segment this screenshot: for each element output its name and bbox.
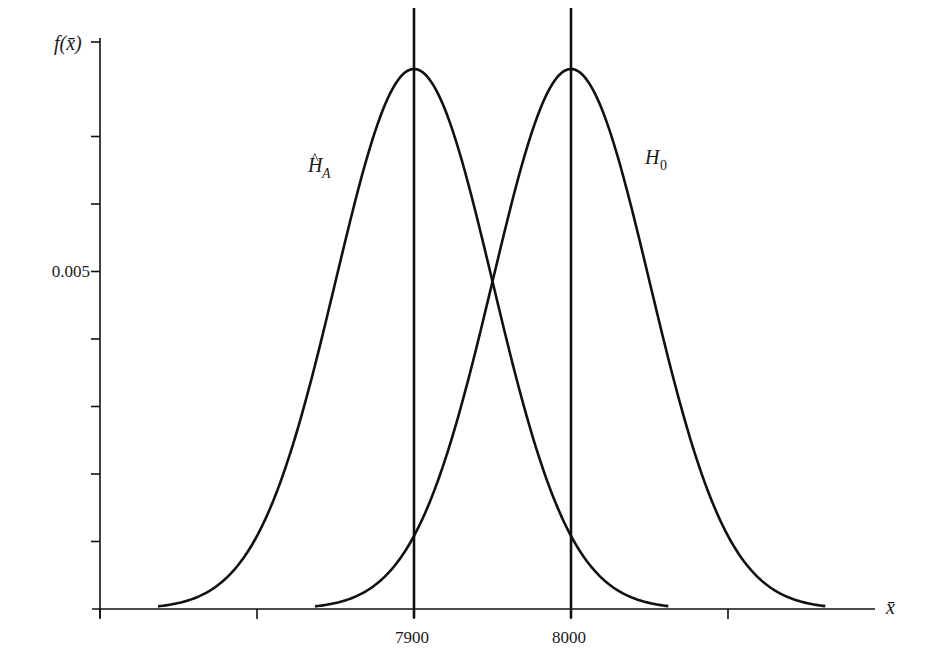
mean-vertical-lines — [414, 8, 571, 618]
y-ticks — [91, 42, 100, 542]
curve-label-h-a: ^ H A — [307, 150, 331, 181]
axes — [91, 38, 875, 619]
svg-text:0: 0 — [660, 158, 667, 173]
y-axis-label: f(x̄) — [54, 32, 82, 55]
density-curves — [158, 69, 825, 606]
curve-label-h-0: H 0 — [644, 146, 667, 173]
x-axis-label: x̄ — [885, 596, 895, 618]
normal-distributions-chart: f(x̄) 0.005 7900 8000 x̄ ^ H A H 0 — [0, 0, 933, 671]
svg-text:A: A — [321, 166, 331, 181]
x-tick-label-7900: 7900 — [395, 628, 429, 647]
x-tick-label-8000: 8000 — [552, 628, 586, 647]
y-tick-label-0005: 0.005 — [52, 262, 90, 281]
svg-text:H: H — [644, 146, 661, 168]
